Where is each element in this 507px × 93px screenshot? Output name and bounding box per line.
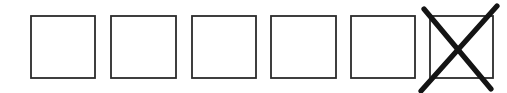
checkbox-5[interactable] [351,16,415,78]
checkbox-3[interactable] [192,16,256,78]
checkbox-4[interactable] [271,16,336,78]
checkbox-2[interactable] [111,16,176,78]
checkbox-1[interactable] [31,16,95,78]
figure-canvas [0,0,507,93]
row-of-checkboxes [0,0,507,93]
